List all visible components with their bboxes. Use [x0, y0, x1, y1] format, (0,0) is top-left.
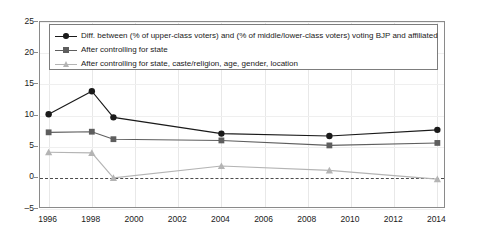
y-axis-tick-label: 5 [6, 141, 34, 150]
y-axis-tick-mark [34, 52, 38, 53]
data-point-square [89, 129, 95, 135]
chart-container: 2520151050–5 199619982000200220042006200… [0, 0, 477, 239]
x-axis: 1996199820002002200420062008201020122014 [39, 209, 445, 235]
series-line [49, 152, 438, 179]
y-axis-tick-mark [34, 21, 38, 22]
x-axis-tick-label: 2008 [297, 215, 316, 224]
data-point-circle [89, 88, 95, 94]
y-axis-tick-mark [34, 83, 38, 84]
data-point-circle [110, 114, 116, 120]
y-axis-tick-mark [34, 208, 38, 209]
legend-triangle-icon [55, 58, 77, 70]
data-series [45, 149, 441, 182]
series-line [49, 91, 438, 136]
legend-item[interactable]: After controlling for state [55, 43, 432, 57]
y-axis-tick-label: 20 [6, 48, 34, 57]
data-point-square [111, 136, 117, 142]
x-axis-tick-label: 2012 [384, 215, 403, 224]
data-point-circle [218, 130, 224, 136]
y-axis: 2520151050–5 [0, 21, 34, 208]
y-axis-tick-label: 15 [6, 79, 34, 88]
x-axis-tick-label: 2002 [168, 215, 187, 224]
y-axis-tick-mark [34, 146, 38, 147]
x-axis-tick-label: 2000 [125, 215, 144, 224]
y-axis-tick-label: 10 [6, 110, 34, 119]
y-axis-tick-mark [34, 177, 38, 178]
data-series [46, 129, 441, 149]
data-point-square [326, 143, 332, 149]
y-axis-tick-label: 0 [6, 172, 34, 181]
legend-item-label: After controlling for state, caste/relig… [81, 60, 298, 68]
data-point-circle [434, 127, 440, 133]
data-point-square [219, 138, 225, 144]
data-point-square [434, 140, 440, 146]
data-point-circle [326, 133, 332, 139]
x-axis-tick-label: 2014 [427, 215, 446, 224]
legend-item-label: Diff. between (% of upper-class voters) … [81, 32, 438, 40]
x-axis-tick-label: 2010 [341, 215, 360, 224]
legend-circle-icon [55, 30, 77, 42]
y-axis-tick-label: 25 [6, 17, 34, 26]
data-point-circle [45, 111, 51, 117]
legend-item[interactable]: Diff. between (% of upper-class voters) … [55, 29, 432, 43]
y-axis-tick-label: –5 [6, 204, 34, 213]
data-series [45, 88, 440, 139]
legend-item[interactable]: After controlling for state, caste/relig… [55, 57, 432, 71]
x-axis-tick-label: 2004 [211, 215, 230, 224]
data-point-square [46, 129, 52, 135]
x-axis-tick-label: 1998 [81, 215, 100, 224]
chart-legend: Diff. between (% of upper-class voters) … [49, 24, 438, 70]
y-axis-tick-mark [34, 115, 38, 116]
x-axis-tick-label: 1996 [38, 215, 57, 224]
legend-item-label: After controlling for state [81, 46, 168, 54]
x-axis-tick-label: 2006 [254, 215, 273, 224]
legend-square-icon [55, 44, 77, 56]
